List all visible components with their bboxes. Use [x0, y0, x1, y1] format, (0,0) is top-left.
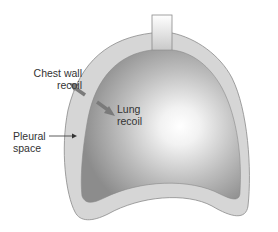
label-line: Lung	[117, 103, 142, 115]
label-line: Chest wall	[16, 67, 82, 79]
label-line: recoil	[16, 79, 82, 91]
lung-recoil-label: Lung recoil	[117, 103, 142, 127]
pleural-space-pointer	[49, 134, 77, 139]
label-line: Pleural	[13, 130, 46, 142]
pleural-space-label: Pleural space	[13, 130, 46, 154]
lung-chest-wall-diagram: Chest wall recoil Lung recoil Pleural sp…	[0, 0, 278, 232]
label-line: recoil	[117, 115, 142, 127]
trachea	[152, 15, 172, 51]
chest-wall-recoil-label: Chest wall recoil	[16, 67, 82, 91]
label-line: space	[13, 142, 46, 154]
